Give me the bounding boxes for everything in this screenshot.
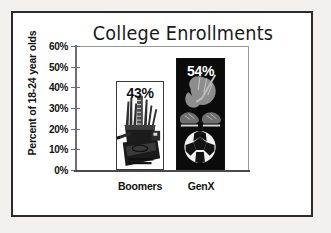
y-tick-label: 20% bbox=[49, 123, 68, 134]
plot-area: 60% 50% 40% 30% 20% 10% bbox=[75, 46, 249, 170]
chart-page: College Enrollments Percent of 18-24 yea… bbox=[0, 0, 331, 233]
y-axis-title: Percent of 18-24 year olds bbox=[26, 18, 38, 168]
bar-boomers[interactable]: 43% bbox=[116, 81, 164, 170]
y-tick-label: 0% bbox=[54, 165, 68, 176]
y-tick-label: 50% bbox=[49, 61, 68, 72]
category-label-genx: GenX bbox=[163, 180, 239, 192]
y-axis-line bbox=[75, 45, 77, 171]
data-label-genx: 54% bbox=[177, 63, 224, 79]
y-tick-label: 60% bbox=[49, 41, 68, 52]
chart-frame: College Enrollments Percent of 18-24 yea… bbox=[11, 11, 313, 217]
x-axis-line bbox=[74, 170, 250, 172]
bar-genx[interactable]: 54% bbox=[176, 58, 225, 170]
chart-title: College Enrollments bbox=[71, 22, 294, 44]
y-tick-label: 40% bbox=[49, 82, 68, 93]
y-tick-label: 30% bbox=[49, 103, 68, 114]
data-label-boomers: 43% bbox=[117, 85, 163, 101]
y-tick-label: 10% bbox=[49, 144, 68, 155]
